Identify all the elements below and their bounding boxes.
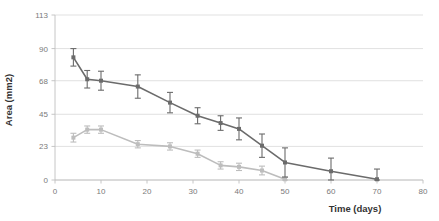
x-tick-labels-group: 01020304050607080: [53, 187, 428, 196]
x-tick-label: 50: [281, 187, 290, 196]
x-tick-label: 40: [235, 187, 244, 196]
data-point-marker: [283, 177, 287, 181]
data-point-marker: [71, 136, 75, 140]
data-point-marker: [375, 177, 379, 181]
data-point-marker: [196, 152, 200, 156]
y-tick-label: 90: [39, 45, 48, 54]
y-tick-label: 23: [39, 142, 48, 151]
data-point-marker: [260, 144, 264, 148]
data-point-marker: [85, 77, 89, 81]
x-tick-label: 20: [143, 187, 152, 196]
x-tick-label: 10: [97, 187, 106, 196]
data-point-marker: [237, 165, 241, 169]
line-chart-svg: 023456890113 01020304050607080 Time (day…: [0, 0, 439, 221]
data-point-marker: [260, 169, 264, 173]
y-tick-label: 45: [39, 110, 48, 119]
y-axis-title: Area (mm2): [3, 74, 14, 126]
x-tick-label: 60: [327, 187, 336, 196]
gridlines-group: [55, 15, 423, 180]
data-point-marker: [71, 55, 75, 59]
x-tick-label: 70: [373, 187, 382, 196]
data-point-marker: [99, 79, 103, 83]
data-point-marker: [99, 128, 103, 132]
x-tick-label: 30: [189, 187, 198, 196]
x-tick-label: 0: [53, 187, 58, 196]
chart-container: 023456890113 01020304050607080 Time (day…: [0, 0, 439, 221]
data-point-marker: [283, 160, 287, 164]
series-line: [73, 130, 285, 180]
data-point-marker: [168, 144, 172, 148]
data-point-marker: [168, 101, 172, 105]
data-point-marker: [136, 142, 140, 146]
data-point-marker: [219, 121, 223, 125]
data-point-marker: [219, 163, 223, 167]
series-light-group: [70, 126, 288, 181]
x-axis-title: Time (days): [329, 203, 382, 214]
y-tick-label: 68: [39, 77, 48, 86]
series-dark-group: [70, 49, 380, 182]
y-tick-label: 0: [44, 176, 49, 185]
data-point-marker: [237, 127, 241, 131]
data-point-marker: [85, 128, 89, 132]
data-point-marker: [136, 85, 140, 89]
data-point-marker: [196, 114, 200, 118]
x-tick-label: 80: [419, 187, 428, 196]
y-tick-label: 113: [35, 11, 48, 20]
data-point-marker: [329, 169, 333, 173]
axis-lines-group: [52, 15, 424, 184]
y-tick-labels-group: 023456890113: [35, 11, 48, 185]
